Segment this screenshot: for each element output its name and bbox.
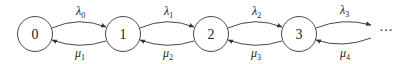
state-node-2: 2: [194, 17, 229, 52]
rate-label-mu-4: μ4: [339, 46, 350, 62]
state-label-3: 3: [296, 27, 303, 42]
edge-lambda-0: [52, 22, 106, 28]
diagram-canvas: 0 1 2 3 ··· λ0 λ1 λ2 λ3 μ1 μ2 μ3 μ4: [0, 0, 411, 64]
rate-label-lambda-0: λ0: [75, 4, 85, 20]
edge-lambda-1: [140, 22, 194, 28]
rate-label-mu-2: μ2: [162, 46, 173, 62]
state-label-2: 2: [208, 27, 215, 42]
continuation-ellipsis: ···: [379, 23, 393, 38]
edge-mu-3: [228, 40, 282, 45]
birth-death-chain-diagram: 0 1 2 3 ··· λ0 λ1 λ2 λ3 μ1 μ2 μ3 μ4: [0, 0, 411, 64]
state-label-1: 1: [120, 27, 127, 42]
state-node-0: 0: [18, 17, 53, 52]
state-label-0: 0: [32, 27, 39, 42]
edge-mu-4: [316, 38, 371, 44]
edge-lambda-2: [228, 22, 282, 28]
rate-label-mu-1: μ1: [74, 46, 85, 62]
edge-lambda-3: [316, 22, 371, 28]
rate-label-lambda-1: λ1: [163, 4, 173, 20]
state-node-3: 3: [282, 17, 317, 52]
rate-label-lambda-3: λ3: [339, 3, 349, 19]
edge-mu-2: [140, 40, 194, 45]
edge-mu-1: [52, 40, 106, 45]
state-node-1: 1: [106, 17, 141, 52]
rate-label-mu-3: μ3: [250, 46, 261, 62]
rate-label-lambda-2: λ2: [251, 4, 261, 20]
